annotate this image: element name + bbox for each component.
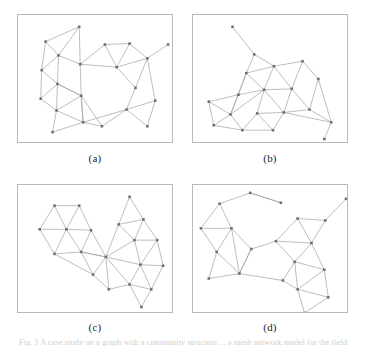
- graph-node: [128, 283, 131, 286]
- graph-edge: [311, 220, 325, 243]
- graph-node: [101, 125, 104, 128]
- graph-node: [128, 42, 131, 45]
- graph-node: [133, 239, 136, 242]
- graph-edge: [250, 193, 281, 203]
- graph-node: [290, 88, 293, 91]
- graph-node: [229, 113, 232, 116]
- graph-edge: [284, 89, 292, 113]
- graph-node: [256, 112, 259, 115]
- panel-c-graph: [18, 185, 172, 312]
- graph-edge: [214, 114, 231, 125]
- graph-edge: [201, 204, 220, 229]
- graph-edge: [93, 257, 106, 275]
- graph-edge: [130, 284, 142, 307]
- graph-edge: [57, 84, 81, 96]
- graph-edge: [117, 44, 130, 68]
- graph-node: [146, 57, 149, 60]
- graph-edge: [119, 197, 130, 225]
- graph-edge: [309, 79, 318, 110]
- panel-d-label: (d): [192, 321, 348, 333]
- graph-node: [308, 108, 311, 111]
- graph-edge: [292, 61, 303, 89]
- graph-node: [208, 277, 211, 280]
- graph-edge: [274, 61, 303, 66]
- graph-edge: [57, 84, 58, 111]
- graph-edge: [55, 206, 67, 230]
- graph-node: [44, 40, 47, 43]
- graph-edge: [127, 110, 148, 127]
- graph-node: [238, 272, 241, 275]
- graph-node: [273, 65, 276, 68]
- graph-node: [40, 69, 43, 72]
- graph-node: [330, 121, 333, 124]
- graph-edge: [209, 102, 214, 126]
- graph-edge: [232, 27, 254, 55]
- graph-node: [301, 60, 304, 63]
- graph-edge: [119, 224, 135, 240]
- graph-edge: [295, 262, 298, 290]
- graph-edge: [134, 240, 140, 265]
- graph-edge: [273, 112, 284, 130]
- graph-node: [142, 218, 145, 221]
- graph-edge: [324, 122, 331, 139]
- graph-edge: [217, 228, 232, 252]
- graph-node: [282, 279, 285, 282]
- graph-node: [323, 138, 326, 141]
- graph-edge: [55, 229, 67, 254]
- graph-node: [272, 129, 275, 132]
- graph-nodes: [200, 192, 347, 312]
- graph-edge: [251, 241, 276, 249]
- graph-edge: [257, 112, 284, 113]
- graph-edge: [106, 257, 141, 265]
- graph-edge: [214, 125, 243, 130]
- graph-node: [154, 99, 157, 102]
- panel-d: [192, 184, 348, 313]
- graph-node: [296, 288, 299, 291]
- graph-edge: [147, 58, 155, 100]
- graph-edge: [284, 112, 331, 122]
- graph-edge: [264, 90, 284, 113]
- panel-b-label: (b): [192, 152, 348, 164]
- panel-d-graph: [193, 185, 347, 312]
- graph-node: [212, 124, 215, 127]
- graph-node: [82, 121, 85, 124]
- graph-edge: [303, 61, 319, 79]
- graph-edge: [201, 228, 217, 252]
- graph-edge: [130, 284, 152, 289]
- graph-edge: [109, 284, 130, 289]
- graph-node: [38, 228, 41, 231]
- graph-node: [150, 288, 153, 291]
- graph-edge: [140, 265, 163, 266]
- graph-node: [146, 125, 149, 128]
- graph-edge: [81, 230, 91, 252]
- graph-node: [218, 202, 221, 205]
- graph-edge: [53, 122, 84, 132]
- graph-edge: [209, 252, 217, 279]
- graph-edges: [209, 27, 331, 139]
- graph-edge: [117, 58, 148, 67]
- graph-edge: [106, 257, 130, 285]
- graph-edge: [117, 67, 136, 88]
- graph-node: [208, 100, 211, 103]
- graph-edge: [264, 66, 274, 90]
- graph-edge: [246, 73, 264, 90]
- graph-edge: [276, 241, 295, 262]
- graph-node: [310, 242, 313, 245]
- graph-node: [275, 240, 278, 243]
- graph-edge: [147, 45, 168, 59]
- graph-edge: [257, 90, 264, 114]
- graph-node: [125, 108, 128, 111]
- graph-edge: [239, 249, 251, 274]
- graph-edge: [151, 266, 163, 290]
- graph-edge: [246, 54, 254, 73]
- graph-edge: [246, 66, 274, 73]
- panel-a-graph: [18, 15, 172, 142]
- graph-node: [230, 227, 233, 230]
- graph-node: [283, 111, 286, 114]
- graph-node: [53, 253, 56, 256]
- graph-edge: [220, 204, 232, 229]
- graph-edge: [42, 42, 46, 71]
- graph-edge: [41, 99, 57, 111]
- graph-edge: [42, 70, 58, 84]
- graph-edge: [79, 27, 80, 64]
